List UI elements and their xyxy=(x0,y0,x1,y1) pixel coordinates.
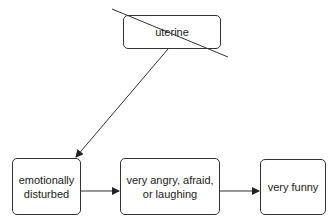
node-label: very funny xyxy=(268,180,319,194)
node-uterine: uterine xyxy=(123,15,221,49)
node-emotionally-disturbed: emotionally disturbed xyxy=(12,158,81,215)
node-label: emotionally disturbed xyxy=(13,173,80,201)
edge-uterine-to-emotionally-disturbed xyxy=(76,49,168,157)
node-very-angry: very angry, afraid, or laughing xyxy=(120,158,220,215)
node-very-funny: very funny xyxy=(260,159,326,215)
node-label: very angry, afraid, or laughing xyxy=(125,173,215,201)
node-label: uterine xyxy=(155,25,189,39)
